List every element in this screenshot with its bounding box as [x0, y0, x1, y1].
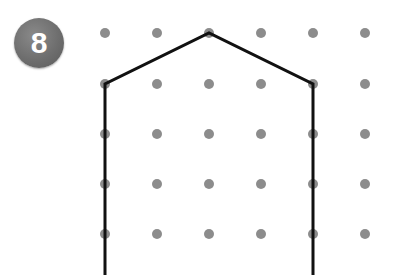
grid-dot — [360, 229, 370, 239]
grid-dot — [360, 79, 370, 89]
grid-dot — [100, 28, 110, 38]
grid-dot — [256, 129, 266, 139]
grid-dot — [360, 28, 370, 38]
grid-dot — [204, 229, 214, 239]
grid-dot — [256, 229, 266, 239]
grid-dot — [204, 129, 214, 139]
grid-dot — [152, 129, 162, 139]
grid-dot — [152, 179, 162, 189]
grid-dot — [152, 229, 162, 239]
grid-dot — [256, 179, 266, 189]
grid-dot — [256, 28, 266, 38]
grid-dot — [256, 79, 266, 89]
dot-grid-drawing — [0, 0, 401, 275]
dot-grid-worksheet: 8 — [0, 0, 401, 275]
grid-dots — [100, 28, 370, 239]
grid-dot — [204, 179, 214, 189]
grid-dot — [152, 79, 162, 89]
grid-dot — [360, 179, 370, 189]
grid-dot — [360, 129, 370, 139]
grid-dot — [152, 28, 162, 38]
grid-dot — [204, 79, 214, 89]
grid-dot — [308, 28, 318, 38]
